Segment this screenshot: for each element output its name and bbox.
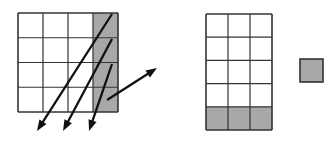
- isolated-square-shape: [300, 59, 323, 82]
- arrow-down-left-2-head: [63, 119, 72, 131]
- right-grid-shaded-row: [206, 107, 272, 130]
- shaded-cell-0: [206, 107, 228, 130]
- isolated-square: [300, 59, 323, 82]
- arrow-up-right-1-head: [145, 68, 157, 77]
- arrow-down-left-1-head: [37, 119, 46, 131]
- right-grid: [206, 14, 272, 130]
- arrow-down-left-3-head: [89, 119, 97, 131]
- shaded-cell-1: [228, 107, 250, 130]
- shaded-cell-2: [250, 107, 272, 130]
- figure-canvas: [0, 0, 335, 144]
